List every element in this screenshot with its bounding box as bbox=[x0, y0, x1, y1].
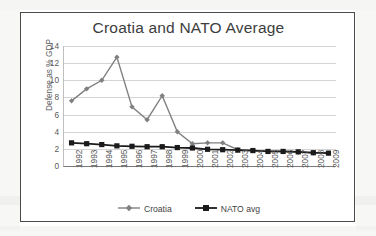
y-tick-label: 10 bbox=[37, 75, 59, 85]
data-point-marker bbox=[114, 143, 119, 148]
scan-artifact-bottom bbox=[0, 226, 376, 236]
y-tick-label: 8 bbox=[37, 92, 59, 102]
y-tick-label: 0 bbox=[37, 161, 59, 171]
y-tick-label: 12 bbox=[37, 58, 59, 68]
legend-item-croatia[interactable]: Croatia bbox=[117, 203, 172, 215]
x-tick-label: 2009 bbox=[331, 150, 341, 168]
data-point-marker bbox=[145, 144, 150, 149]
x-tick-label: 2000 bbox=[195, 150, 205, 168]
x-tick-label: 1995 bbox=[119, 150, 129, 168]
data-point-marker bbox=[69, 140, 74, 145]
chart-title: Croatia and NATO Average bbox=[21, 19, 356, 37]
series-line bbox=[72, 57, 329, 153]
x-tick-label: 2006 bbox=[285, 150, 295, 168]
x-tick-label: 1992 bbox=[74, 150, 84, 168]
x-tick-label: 1993 bbox=[89, 150, 99, 168]
data-point-marker bbox=[84, 141, 89, 146]
x-tick-label: 2003 bbox=[240, 150, 250, 168]
x-tick-label: 1994 bbox=[104, 150, 114, 168]
x-tick-label: 2002 bbox=[225, 150, 235, 168]
square-marker-icon bbox=[194, 203, 218, 215]
y-axis-tick-labels: 02468101214 bbox=[33, 46, 59, 166]
y-tick-label: 14 bbox=[37, 41, 59, 51]
y-tick-label: 4 bbox=[37, 127, 59, 137]
legend-label: NATO avg bbox=[221, 204, 260, 214]
x-tick-label: 1997 bbox=[149, 150, 159, 168]
y-tick-label: 6 bbox=[37, 110, 59, 120]
x-axis-tick-labels: 1992199319941995199619971998199920002001… bbox=[63, 168, 335, 208]
x-tick-label: 2005 bbox=[270, 150, 280, 168]
legend-item-nato-avg[interactable]: NATO avg bbox=[194, 203, 260, 215]
x-tick-label: 1999 bbox=[180, 150, 190, 168]
scan-artifact-top bbox=[0, 0, 376, 10]
x-tick-label: 2004 bbox=[255, 150, 265, 168]
data-point-marker bbox=[205, 140, 210, 145]
data-point-marker bbox=[220, 140, 225, 145]
diamond-marker-icon bbox=[117, 203, 141, 215]
x-tick-label: 2001 bbox=[210, 150, 220, 168]
legend-label: Croatia bbox=[144, 204, 172, 214]
chart-container: Croatia and NATO Average Defense as % GD… bbox=[20, 12, 355, 222]
data-point-marker bbox=[99, 142, 104, 147]
y-tick-label: 2 bbox=[37, 144, 59, 154]
chart-legend: CroatiaNATO avg bbox=[21, 203, 356, 215]
x-tick-label: 2007 bbox=[300, 150, 310, 168]
data-point-marker bbox=[129, 144, 134, 149]
x-tick-label: 1998 bbox=[164, 150, 174, 168]
series-layer bbox=[64, 46, 336, 166]
data-point-marker bbox=[160, 144, 165, 149]
x-tick-label: 2008 bbox=[316, 150, 326, 168]
x-tick-label: 1996 bbox=[134, 150, 144, 168]
